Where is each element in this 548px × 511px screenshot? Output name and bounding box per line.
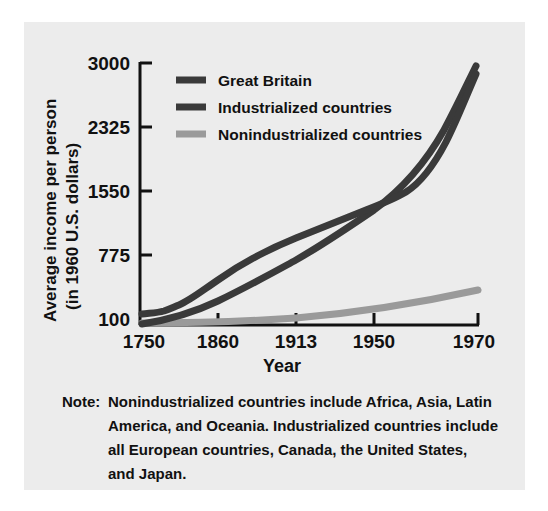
y-axis-title-line1: Average income per person [41, 99, 60, 322]
x-tick-label-1913: 1913 [275, 331, 317, 352]
legend-entry-nonindustrialized-countries: Nonindustrialized countries [176, 126, 422, 143]
chart-figure-panel: 3000 2325 1550 775 100 1750 1860 1913 19… [24, 22, 525, 490]
legend-label-industrialized-countries: Industrialized countries [218, 99, 392, 116]
legend-entry-great-britain: Great Britain [176, 72, 312, 89]
y-axis [140, 62, 152, 325]
y-tick-label-3000: 3000 [88, 53, 130, 74]
y-tick-label-775: 775 [98, 245, 130, 266]
y-tick-label-2325: 2325 [88, 117, 131, 138]
y-tick-label-1550: 1550 [88, 181, 130, 202]
note-line-2: America, and Oceania. Industrialized cou… [108, 417, 498, 434]
legend-entry-industrialized-countries: Industrialized countries [176, 99, 392, 116]
y-axis-title: Average income per person (in 1960 U.S. … [41, 99, 82, 322]
legend-label-great-britain: Great Britain [218, 72, 312, 89]
chart-note: Note: Nonindustrialized countries includ… [62, 393, 498, 482]
note-prefix: Note: [62, 393, 100, 410]
note-line-3: all European countries, Canada, the Unit… [108, 441, 467, 458]
y-tick-label-100: 100 [98, 309, 130, 330]
y-axis-title-line2: (in 1960 U.S. dollars) [63, 143, 82, 310]
note-line-4: and Japan. [108, 465, 186, 482]
x-tick-label-1950: 1950 [353, 331, 395, 352]
note-line-1: Nonindustrialized countries include Afri… [108, 393, 492, 410]
x-axis-title: Year [263, 356, 301, 376]
income-line-chart: 3000 2325 1550 775 100 1750 1860 1913 19… [24, 22, 525, 490]
chart-legend: Great Britain Industrialized countries N… [176, 72, 422, 143]
x-tick-label-1860: 1860 [197, 331, 239, 352]
x-tick-label-1750: 1750 [123, 331, 165, 352]
legend-label-nonindustrialized-countries: Nonindustrialized countries [218, 126, 422, 143]
x-tick-label-1970: 1970 [453, 331, 495, 352]
